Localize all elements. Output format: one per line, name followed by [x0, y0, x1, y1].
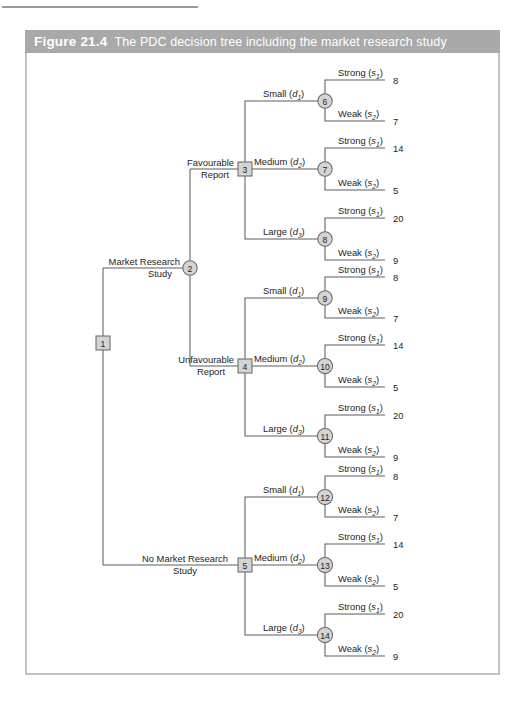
- state-label-strong-node14: Strong (s1): [338, 601, 383, 614]
- medium-text-3: Medium (: [254, 552, 294, 563]
- weak-text-5: Weak (: [338, 374, 368, 385]
- node-2[interactable]: 2: [183, 261, 197, 275]
- paren-3: ): [302, 226, 305, 237]
- payoff-node13-strong: 14: [393, 539, 403, 550]
- sparen-5: ): [380, 205, 383, 216]
- branch-label-small-d1-node5: Small (d1): [263, 484, 304, 497]
- svg-text:Weak (s2): Weak (s2): [338, 177, 379, 190]
- node-6[interactable]: 6: [318, 94, 332, 108]
- payoff-node8-weak: 9: [393, 255, 398, 266]
- svg-text:Strong (s1): Strong (s1): [338, 205, 383, 218]
- paren-9: ): [302, 622, 305, 633]
- svg-text:Small (d1): Small (d1): [263, 88, 304, 101]
- weak-text-2: Weak (: [338, 177, 368, 188]
- svg-text:Weak (s2): Weak (s2): [338, 247, 379, 260]
- no-market-research-line2: Study: [173, 565, 197, 576]
- svg-text:Weak (s2): Weak (s2): [338, 108, 379, 121]
- state-label-strong-node11: Strong (s1): [338, 402, 383, 415]
- strong-text-9: Strong (: [338, 601, 372, 612]
- state-label-strong-node10: Strong (s1): [338, 332, 383, 345]
- strong-text-5: Strong (: [338, 332, 372, 343]
- strong-text-4: Strong (: [338, 264, 372, 275]
- node-7-label: 7: [323, 165, 328, 175]
- decision-tree-svg: 1 2 3 4 5: [25, 53, 500, 675]
- node-5[interactable]: 5: [238, 558, 252, 572]
- svg-text:Large (d3): Large (d3): [263, 226, 305, 239]
- large-text-2: Large (: [263, 423, 294, 434]
- paren-1: ): [301, 88, 304, 99]
- node-11[interactable]: 11: [317, 428, 332, 443]
- svg-text:Strong (s1): Strong (s1): [338, 601, 383, 614]
- svg-text:Large (d3): Large (d3): [263, 622, 305, 635]
- paren-2: ): [302, 156, 305, 167]
- state-label-weak-node14: Weak (s2): [338, 643, 379, 656]
- svg-text:Strong (s1): Strong (s1): [338, 402, 383, 415]
- payoff-node14-weak: 9: [393, 651, 398, 662]
- favourable-line2: Report: [201, 169, 230, 180]
- sparen-2: ): [376, 108, 379, 119]
- sparen-7: ): [380, 264, 383, 275]
- state-label-strong-node9: Strong (s1): [338, 264, 383, 277]
- no-market-research-line1: No Market Research: [142, 553, 228, 564]
- payoff-node7-weak: 5: [393, 185, 398, 196]
- page-top-rule: [2, 6, 198, 8]
- payoff-node14-strong: 20: [393, 609, 403, 620]
- svg-text:Medium (d2): Medium (d2): [254, 156, 305, 169]
- svg-text:Small (d1): Small (d1): [263, 484, 304, 497]
- node-6-label: 6: [323, 97, 328, 107]
- sparen-10: ): [376, 374, 379, 385]
- branch-label-small-d1-node3: Small (d1): [263, 88, 304, 101]
- weak-text-6: Weak (: [338, 444, 368, 455]
- decision-tree-canvas: 1 2 3 4 5: [25, 53, 500, 675]
- payoff-node9-weak: 7: [393, 313, 398, 324]
- state-label-weak-node8: Weak (s2): [338, 247, 379, 260]
- sparen-3: ): [380, 135, 383, 146]
- figure-header: Figure 21.4 The PDC decision tree includ…: [25, 30, 500, 53]
- payoff-node8-strong: 20: [393, 213, 403, 224]
- payoff-node10-weak: 5: [393, 382, 398, 393]
- svg-text:Weak (s2): Weak (s2): [338, 504, 379, 517]
- state-label-strong-node13: Strong (s1): [338, 531, 383, 544]
- node-10-label: 10: [320, 362, 330, 372]
- branch-label-large-d3-node3: Large (d3): [263, 226, 305, 239]
- node-4-label: 4: [243, 362, 248, 372]
- node-12[interactable]: 12: [317, 489, 332, 504]
- state-label-weak-node6: Weak (s2): [338, 108, 379, 121]
- market-research-line2: Study: [148, 268, 172, 279]
- unfavourable-line1: Unfavourable: [178, 354, 234, 365]
- node-8[interactable]: 8: [318, 232, 332, 246]
- sparen-13: ): [380, 463, 383, 474]
- node-1[interactable]: 1: [96, 336, 110, 350]
- payoff-node9-strong: 8: [393, 272, 398, 283]
- strong-text-3: Strong (: [338, 205, 372, 216]
- sparen-11: ): [380, 402, 383, 413]
- weak-text-7: Weak (: [338, 504, 368, 515]
- branch-label-large-d3-node5: Large (d3): [263, 622, 305, 635]
- node-14[interactable]: 14: [317, 627, 332, 642]
- state-label-strong-node6: Strong (s1): [338, 67, 383, 80]
- svg-text:Strong (s1): Strong (s1): [338, 332, 383, 345]
- svg-text:Weak (s2): Weak (s2): [338, 573, 379, 586]
- svg-text:Weak (s2): Weak (s2): [338, 444, 379, 457]
- node-12-label: 12: [320, 493, 330, 503]
- state-label-weak-node10: Weak (s2): [338, 374, 379, 387]
- payoff-node13-weak: 5: [393, 581, 398, 592]
- node-9[interactable]: 9: [318, 291, 332, 305]
- state-label-weak-node7: Weak (s2): [338, 177, 379, 190]
- node-3[interactable]: 3: [238, 162, 252, 176]
- sparen-6: ): [376, 247, 379, 258]
- node-7[interactable]: 7: [318, 162, 332, 176]
- payoff-node7-strong: 14: [393, 143, 403, 154]
- payoff-node11-weak: 9: [393, 452, 398, 463]
- paren-8: ): [302, 552, 305, 563]
- branch-label-medium-d2-node3: Medium (d2): [254, 156, 305, 169]
- node-13[interactable]: 13: [317, 557, 332, 572]
- node-4[interactable]: 4: [238, 359, 252, 373]
- sparen-9: ): [380, 332, 383, 343]
- svg-text:Strong (s1): Strong (s1): [338, 67, 383, 80]
- paren-6: ): [302, 423, 305, 434]
- svg-text:Medium (d2): Medium (d2): [254, 552, 305, 565]
- node-10[interactable]: 10: [317, 358, 332, 373]
- branch-label-medium-d2-node4: Medium (d2): [254, 353, 305, 366]
- weak-text-9: Weak (: [338, 643, 368, 654]
